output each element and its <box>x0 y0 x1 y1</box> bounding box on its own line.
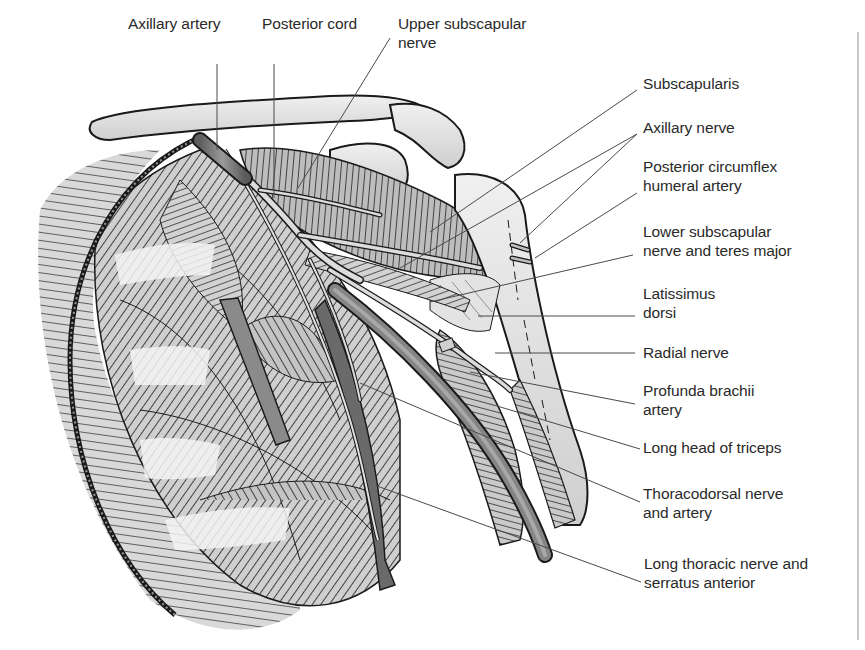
label-line: Axillary artery <box>128 14 220 33</box>
label-axillary-nerve: Axillary nerve <box>643 118 735 137</box>
label-long-head-triceps: Long head of triceps <box>643 438 781 457</box>
label-subscapularis: Subscapularis <box>643 74 739 93</box>
label-line: dorsi <box>643 303 715 322</box>
label-line: nerve and teres major <box>643 241 792 260</box>
label-upper-subscapular-nerve: Upper subscapular nerve <box>398 14 526 52</box>
leader-posterior-circumflex <box>535 193 637 258</box>
label-line: and artery <box>643 503 783 522</box>
label-thoracodorsal-nerve-artery: Thoracodorsal nerve and artery <box>643 484 783 522</box>
clavicle <box>90 96 425 141</box>
label-line: Long head of triceps <box>643 438 781 457</box>
axilla-illustration <box>0 0 865 650</box>
label-axillary-artery: Axillary artery <box>128 14 220 33</box>
label-long-thoracic-nerve-serratus-anterior: Long thoracic nerve and serratus anterio… <box>644 554 808 592</box>
label-line: nerve <box>398 33 526 52</box>
label-lower-subscapular-nerve: Lower subscapular nerve and teres major <box>643 222 792 260</box>
label-line: Subscapularis <box>643 74 739 93</box>
label-posterior-circumflex-humeral-artery: Posterior circumflex humeral artery <box>643 157 777 195</box>
label-line: Radial nerve <box>643 343 729 362</box>
label-line: humeral artery <box>643 176 777 195</box>
label-line: Latissimus <box>643 284 715 303</box>
label-line: artery <box>643 400 754 419</box>
humerus <box>455 174 588 525</box>
label-line: Long thoracic nerve and <box>644 554 808 573</box>
label-posterior-cord: Posterior cord <box>262 14 357 33</box>
leader-axillary-nerve-2 <box>520 134 637 243</box>
label-line: Lower subscapular <box>643 222 792 241</box>
label-line: Thoracodorsal nerve <box>643 484 783 503</box>
label-line: Posterior cord <box>262 14 357 33</box>
label-radial-nerve: Radial nerve <box>643 343 729 362</box>
label-line: Profunda brachii <box>643 381 754 400</box>
anatomy-figure: Axillary artery Posterior cord Upper sub… <box>0 0 865 650</box>
label-latissimus-dorsi: Latissimus dorsi <box>643 284 715 322</box>
label-line: serratus anterior <box>644 573 808 592</box>
label-profunda-brachii-artery: Profunda brachii artery <box>643 381 754 419</box>
label-line: Upper subscapular <box>398 14 526 33</box>
label-line: Posterior circumflex <box>643 157 777 176</box>
label-line: Axillary nerve <box>643 118 735 137</box>
page-divider-line <box>857 32 859 640</box>
